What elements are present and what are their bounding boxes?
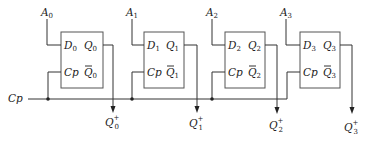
junction-dot: [46, 97, 50, 101]
cp1-pin-label: Cp: [147, 66, 162, 78]
clock-to-ff2-wire: [212, 72, 225, 99]
input-a0-label: A0: [40, 6, 53, 20]
cp3-pin-label: Cp: [303, 66, 318, 78]
input-a2-wire: [212, 19, 225, 45]
clock-to-ff1-wire: [132, 72, 144, 99]
flip-flop-1: A1 D1 Q1 Cp Q1 Q+1: [125, 6, 204, 132]
clock-label: Cp: [8, 92, 23, 104]
flip-flop-0: A0 D0 Q0 Cp Q0 Q+0: [40, 6, 120, 131]
clock-to-ff0-wire: [48, 72, 61, 99]
arrow-down-icon: [275, 107, 280, 114]
output-q2-label: Q+2: [269, 117, 284, 134]
arrow-down-icon: [195, 106, 200, 113]
junction-dot: [130, 97, 134, 101]
arrow-down-icon: [111, 106, 116, 113]
input-a2-label: A2: [205, 6, 218, 20]
output-q0-label: Q+0: [105, 114, 120, 131]
q3-output-wire: [340, 45, 352, 109]
output-q3-label: Q+3: [344, 119, 359, 136]
input-a0-wire: [47, 19, 61, 45]
input-a1-label: A1: [125, 6, 138, 20]
cp0-pin-label: Cp: [64, 66, 79, 78]
junction-dot: [210, 97, 214, 101]
input-a3-wire: [286, 19, 300, 45]
output-q1-label: Q+1: [189, 115, 204, 132]
arrow-down-icon: [350, 107, 355, 114]
clock-to-ff3-wire: [287, 72, 300, 99]
input-a3-label: A3: [279, 6, 292, 20]
flip-flop-2: A2 D2 Q2 Cp Q2 Q+2: [205, 6, 284, 134]
circuit-diagram: Cp A0 D0 Q0 Cp Q0 Q+0 A1 D1 Q1 Cp Q1 Q+1…: [0, 0, 368, 142]
flip-flop-3: A3 D3 Q3 Cp Q3 Q+3: [279, 6, 359, 136]
input-a1-wire: [132, 19, 144, 45]
cp2-pin-label: Cp: [228, 66, 243, 78]
